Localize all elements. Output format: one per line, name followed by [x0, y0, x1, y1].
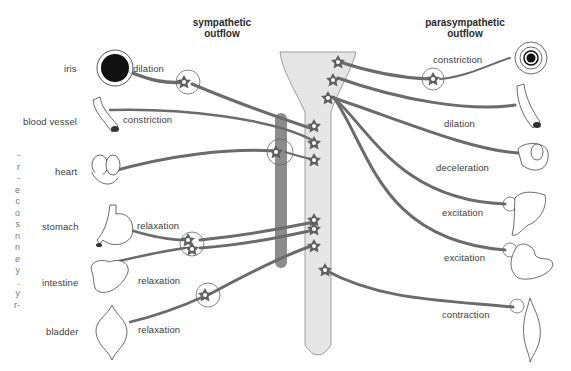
intestine-left — [91, 260, 128, 292]
organ-label-blood-vessel: blood vessel — [23, 116, 77, 127]
heart-right — [518, 144, 548, 171]
organ-label-intestine: intestine — [42, 277, 78, 288]
sympathetic-chain — [275, 113, 287, 268]
organ-label-iris: iris — [64, 63, 77, 74]
effect-sympathetic-bladder: relaxation — [138, 324, 180, 335]
iris-right — [515, 42, 547, 74]
iris-left — [97, 50, 133, 86]
organ-label-stomach: stomach — [42, 221, 79, 232]
effect-sympathetic-iris: dilation — [133, 63, 164, 74]
organ-label-heart: heart — [55, 166, 77, 177]
parasympathetic-nerves — [325, 58, 518, 307]
effect-sympathetic-stomach: relaxation — [137, 220, 179, 231]
effect-parasympathetic-heart: deceleration — [436, 162, 489, 173]
effect-sympathetic-intestine: relaxation — [138, 275, 180, 286]
bladder-left — [96, 305, 127, 360]
spinal-cord — [280, 52, 356, 355]
effect-sympathetic-blood-vessel: constriction — [123, 114, 172, 125]
stomach-right — [512, 192, 546, 235]
effect-parasympathetic-stomach: excitation — [442, 207, 483, 218]
intestine-right — [511, 244, 553, 279]
effect-parasympathetic-intestine: excitation — [444, 252, 485, 263]
organ-label-bladder: bladder — [46, 326, 78, 337]
blood-vessel-right — [517, 84, 540, 128]
effect-parasympathetic-blood-vessel: dilation — [444, 118, 475, 129]
effect-parasympathetic-bladder: contraction — [442, 309, 490, 320]
effect-parasympathetic-iris: constriction — [433, 54, 482, 65]
heart-left — [92, 155, 120, 184]
bladder-right — [524, 298, 541, 362]
stomach-left — [97, 205, 133, 245]
